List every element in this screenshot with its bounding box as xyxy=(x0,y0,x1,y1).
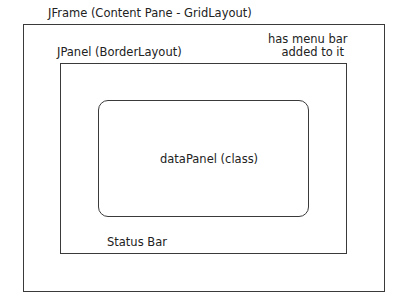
menu-bar-note-line2: added to it xyxy=(278,46,348,59)
menu-bar-note: has menu bar added to it xyxy=(268,33,348,59)
status-bar-label: Status Bar xyxy=(107,236,167,249)
data-panel-label: dataPanel (class) xyxy=(160,153,258,166)
jpanel-label: JPanel (BorderLayout) xyxy=(57,46,182,59)
jframe-label: JFrame (Content Pane - GridLayout) xyxy=(48,7,252,20)
